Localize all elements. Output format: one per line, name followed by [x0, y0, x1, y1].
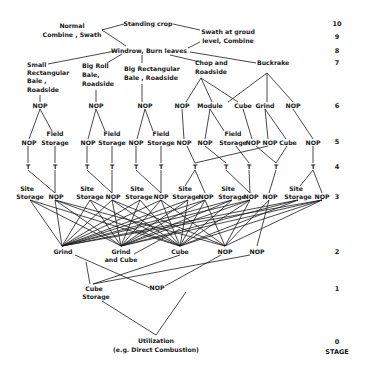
stage-label-4: 4 [335, 163, 340, 171]
node-s4-t: T [134, 163, 139, 170]
node-chop: Roadside [195, 68, 227, 75]
node-swath: level, Combine [202, 37, 254, 44]
node-s4-t: T [224, 163, 229, 170]
node-s3-site-storage: Storage [218, 193, 246, 201]
node-s4-t: T [311, 163, 316, 170]
node-s5-field-storage: Storage [98, 139, 126, 147]
node-big-roll-bale: Bale, [82, 71, 100, 78]
node-buckrake: Buckrake [257, 59, 289, 66]
node-s6-grind: Grind [255, 102, 274, 109]
node-s4-t: T [193, 163, 198, 170]
node-s5-field-storage: Field [46, 130, 63, 137]
node-s6-nop: NOP [138, 102, 153, 109]
node-s3-nop: NOP [263, 193, 278, 200]
node-utilization: Utilization [138, 337, 174, 344]
node-s6-nop: NOP [175, 102, 190, 109]
node-standing-crop: Standing crop [124, 20, 174, 28]
node-s3-site-storage: Site [221, 185, 235, 192]
stage-axis-title: STAGE [325, 348, 348, 356]
node-s6-module: Module [197, 102, 223, 109]
node-big-roll-bale: Big Roll [82, 62, 109, 70]
node-s5-nop: NOP [129, 139, 144, 146]
node-s4-t: T [85, 163, 90, 170]
node-s5-nop: NOP [246, 139, 261, 146]
node-s3-site-storage: Site [130, 185, 144, 192]
node-s6-nop: NOP [33, 102, 48, 109]
node-s3-site-storage: Storage [16, 193, 44, 201]
node-s3-site-storage: Site [80, 185, 94, 192]
node-s3-site-storage: Site [178, 185, 192, 192]
node-s3-site-storage: Site [289, 185, 303, 192]
node-s4-t: T [53, 163, 58, 170]
stage3-to-stage2-edges [30, 200, 322, 254]
node-s4-t: T [247, 163, 252, 170]
node-s5-nop: NOP [81, 139, 96, 146]
node-small-rect-bale: Roadside [27, 86, 59, 93]
stage-label-3: 3 [335, 193, 340, 201]
node-s5-nop: NOP [306, 139, 321, 146]
stage-label-9: 9 [335, 33, 340, 41]
node-swath: Swath at groud [201, 28, 255, 36]
node-s4-t: T [26, 163, 31, 170]
node-s4-t: T [110, 163, 115, 170]
nodes: Standing crop Normal Combine , Swath Swa… [16, 20, 330, 354]
node-s5-nop: NOP [263, 139, 278, 146]
node-s3-nop: NOP [154, 193, 169, 200]
stage-label-10: 10 [332, 20, 342, 28]
node-normal: Normal [59, 22, 84, 29]
node-s3-site-storage: Site [20, 185, 34, 192]
node-s1-cube-storage: Cube [85, 285, 103, 292]
node-s5-field-storage: Field [224, 130, 241, 137]
node-s3-site-storage: Storage [172, 193, 200, 201]
node-s3-site-storage: Storage [284, 193, 312, 201]
node-s3-site-storage: Storage [125, 193, 153, 201]
node-s6-cube: Cube [234, 102, 252, 109]
node-s1-cube-storage: Storage [82, 293, 110, 301]
node-s6-nop: NOP [89, 102, 104, 109]
node-s1-nop: NOP [150, 284, 165, 291]
node-normal: Combine , Swath [43, 31, 102, 38]
node-s5-field-storage: Storage [41, 139, 69, 147]
stage-decision-diagram: Standing crop Normal Combine , Swath Swa… [0, 0, 366, 375]
node-big-rect-bale: Big Rectangular [124, 65, 181, 73]
stage-label-6: 6 [335, 102, 340, 110]
node-s4-t: T [159, 163, 164, 170]
node-s2-cube: Cube [171, 248, 189, 255]
node-small-rect-bale: Rectangular [27, 69, 70, 77]
stage-axis: 10 9 8 7 6 5 4 3 2 1 0 STAGE [325, 20, 348, 356]
node-small-rect-bale: Small [27, 61, 46, 68]
node-s2-grind: Grind [53, 248, 72, 255]
node-s3-nop: NOP [244, 193, 259, 200]
node-s5-field-storage: Field [152, 130, 169, 137]
node-s2-nop: NOP [250, 248, 265, 255]
node-s5-nop: NOP [177, 139, 192, 146]
node-s5-cube: Cube [279, 139, 297, 146]
node-s3-nop: NOP [315, 193, 330, 200]
node-s3-site-storage: Storage [76, 193, 104, 201]
node-big-roll-bale: Roadside [82, 80, 114, 87]
node-utilization: (e.g. Direct Combustion) [113, 346, 199, 354]
stage-label-0: 0 [335, 338, 340, 346]
stage-label-7: 7 [335, 59, 340, 67]
node-s2-nop: NOP [218, 248, 233, 255]
node-s2-grind-and-cube: Grind [111, 248, 130, 255]
node-s5-field-storage: Storage [147, 139, 175, 147]
node-s3-nop: NOP [49, 193, 64, 200]
node-s6-nop: NOP [286, 102, 301, 109]
stage-label-2: 2 [335, 248, 340, 256]
node-s4-t: T [274, 163, 279, 170]
node-s5-nop: NOP [22, 139, 37, 146]
stage-label-5: 5 [335, 138, 340, 146]
node-s5-nop: NOP [198, 139, 213, 146]
node-s5-field-storage: Storage [219, 139, 247, 147]
stage-label-8: 8 [335, 47, 340, 55]
node-big-rect-bale: Bale , Roadside [124, 74, 178, 81]
node-s3-nop: NOP [106, 193, 121, 200]
node-chop: Chop and [195, 59, 228, 67]
node-s5-field-storage: Field [103, 130, 120, 137]
node-s2-grind-and-cube: and Cube [105, 256, 138, 263]
stage-label-1: 1 [335, 285, 340, 293]
node-windrow: Windrow, Burn leaves [111, 47, 187, 54]
node-small-rect-bale: Bale , [27, 77, 47, 84]
node-s3-nop: NOP [199, 193, 214, 200]
